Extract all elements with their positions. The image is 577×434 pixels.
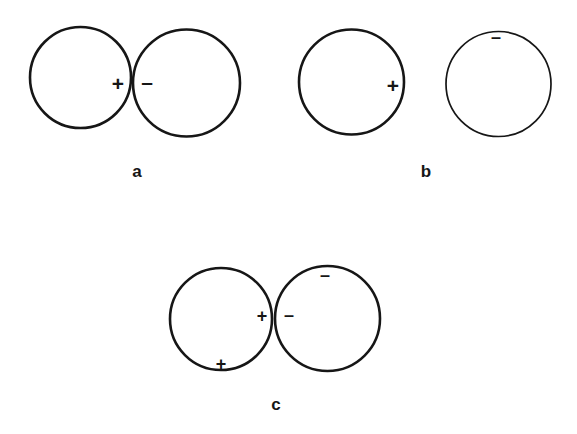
- panel-c-upper-minus-charge: –: [310, 266, 340, 284]
- panel-label-a: a: [117, 163, 157, 180]
- panel-b-plus-charge: +: [378, 75, 408, 96]
- circles-canvas: [0, 0, 577, 434]
- canvas-background: [0, 0, 577, 434]
- panel-c-lower-plus-charge: +: [206, 355, 236, 373]
- panel-a-plus-charge: +: [103, 73, 133, 94]
- panel-c-contact-plus-charge: +: [247, 307, 277, 325]
- panel-b-minus-charge: –: [481, 28, 511, 46]
- panel-label-b: b: [406, 163, 446, 180]
- panel-c-contact-minus-charge: –: [274, 306, 304, 324]
- panel-label-c: c: [256, 396, 296, 413]
- figure-root: +–+–+–+– abc: [0, 0, 577, 434]
- panel-a-minus-charge: –: [132, 71, 162, 92]
